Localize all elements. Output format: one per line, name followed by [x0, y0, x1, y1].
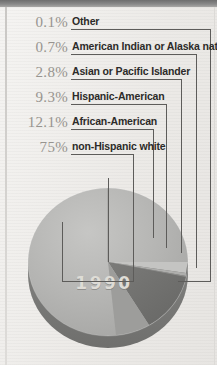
pie-chart-svg [16, 178, 202, 360]
legend-percent-other: 0.1% [4, 14, 68, 31]
infographic-root: 1990 0.1% Other 0.7% American I [0, 0, 217, 365]
legend-label-hispanic-american: Hispanic-American [72, 90, 165, 103]
legend-label-asian-pacific-islander: Asian or Pacific Islander [72, 65, 190, 78]
pie-chart: 1990 [16, 178, 202, 360]
legend-percent-hispanic-american: 9.3% [4, 89, 68, 106]
legend-label-other: Other [72, 15, 99, 28]
legend-label-american-indian: American Indian or Alaska native [72, 40, 217, 53]
legend-percent-african-american: 12.1% [4, 114, 68, 131]
legend-percent-american-indian: 0.7% [4, 39, 68, 56]
legend-label-african-american: African-American [72, 115, 157, 128]
legend-percent-non-hispanic-white: 75% [4, 139, 68, 156]
pie-year-label: 1990 [16, 273, 192, 293]
legend-percent-asian-pacific-islander: 2.8% [4, 64, 68, 81]
legend-label-non-hispanic-white: non-Hispanic white [72, 140, 166, 153]
legend-list: 0.1% Other 0.7% American Indian or Alask… [0, 0, 217, 175]
